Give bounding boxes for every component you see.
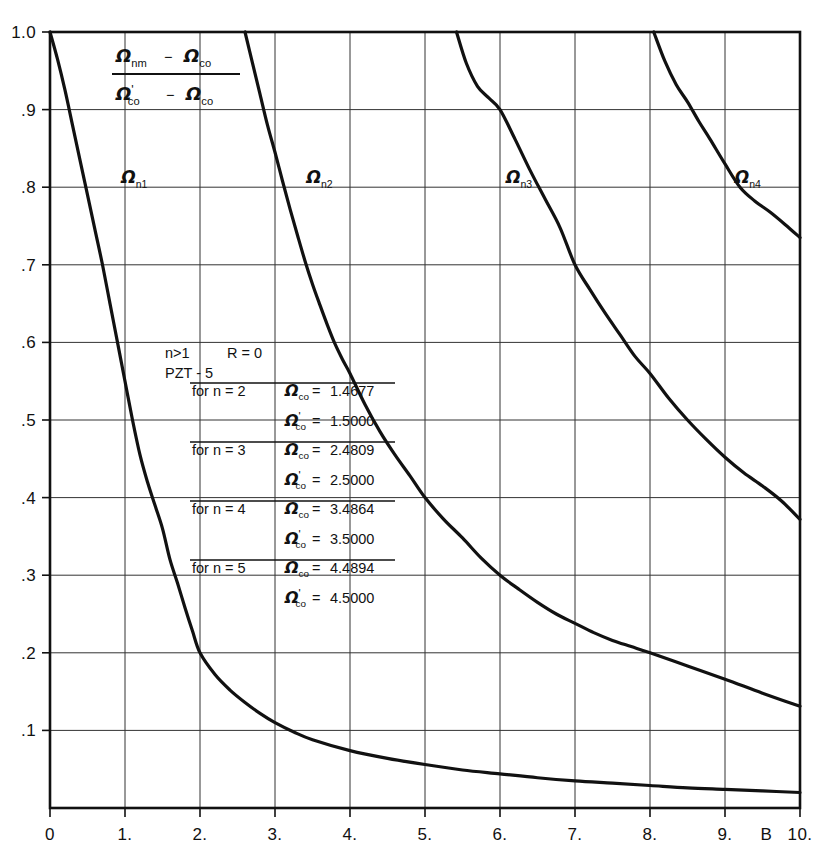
annotation-row-equals: = — [312, 472, 320, 488]
denominator-minus: − — [166, 87, 174, 103]
annotation-row-label: for n = 5 — [192, 560, 246, 576]
annotation-row-value: 2.5000 — [330, 472, 374, 488]
annotation-material: PZT - 5 — [165, 365, 213, 381]
y-tick-label: .9 — [21, 101, 36, 120]
annotation-row-value: 4.4894 — [330, 560, 374, 576]
annotation-row-value: 1.4677 — [330, 383, 374, 399]
annotation-row-symbol: Ω'co — [284, 528, 306, 549]
annotation-row-equals: = — [312, 442, 320, 458]
annotation-row-label: for n = 2 — [192, 383, 246, 399]
omega-symbol: Ωnm — [115, 45, 147, 69]
curve-label-n2: Ωn2 — [306, 167, 333, 189]
x-tick-label: 6. — [493, 825, 508, 844]
annotation-row-equals: = — [312, 383, 320, 399]
curve-label-n4: Ωn4 — [734, 167, 761, 189]
annotation-row-label: for n = 3 — [192, 442, 246, 458]
annotation-row-equals: = — [312, 501, 320, 517]
x-axis-name-label: B — [760, 825, 772, 844]
omega-symbol: Ωco — [183, 45, 211, 69]
curve-labels: Ωn1Ωn2Ωn3Ωn4 — [120, 167, 761, 189]
numerator-minus: − — [164, 49, 172, 65]
annotation-row-value: 3.5000 — [330, 531, 374, 547]
y-tick-label: .4 — [21, 489, 36, 508]
annotation-row-equals: = — [312, 590, 320, 606]
x-tick-label: 10. — [788, 825, 813, 844]
curve-__n4 — [654, 32, 800, 238]
annotation-row-value: 1.5000 — [330, 413, 374, 429]
x-tick-label: 2. — [193, 825, 208, 844]
y-tick-label: .5 — [21, 411, 36, 430]
annotation-row-symbol: Ω'co — [284, 410, 306, 431]
x-tick-label: 0 — [45, 825, 55, 844]
y-axis-tick-labels: 1.0.9.8.7.6.5.4.3.2.1 — [11, 23, 36, 740]
annotation-row-label: for n = 4 — [192, 501, 246, 517]
y-axis-title-fraction: Ωnm−ΩcoΩ'co−Ωco — [112, 45, 240, 107]
x-tick-label: 1. — [118, 825, 133, 844]
curve-label-n1: Ωn1 — [120, 167, 147, 189]
y-tick-label: 1.0 — [11, 23, 36, 42]
annotation-row-equals: = — [312, 531, 320, 547]
x-tick-label: 3. — [268, 825, 283, 844]
annotation-row-symbol: Ωco — [284, 558, 310, 579]
annotation-row-equals: = — [312, 413, 320, 429]
annotation-row-symbol: Ωco — [284, 440, 310, 461]
figure-container: 1.0.9.8.7.6.5.4.3.2.1 01.2.3.4.5.6.7.8.9… — [0, 0, 825, 862]
x-tick-label: 4. — [343, 825, 358, 844]
x-axis-tick-labels: 01.2.3.4.5.6.7.8.9.10. — [45, 825, 812, 844]
annotation-row-value: 3.4864 — [330, 501, 374, 517]
x-tick-label: 5. — [418, 825, 433, 844]
chart-canvas: 1.0.9.8.7.6.5.4.3.2.1 01.2.3.4.5.6.7.8.9… — [0, 0, 825, 862]
y-tick-label: .2 — [21, 644, 36, 663]
annotation-condition: n>1 — [165, 345, 190, 361]
annotation-row-symbol: Ω'co — [284, 469, 306, 490]
curve-label-n3: Ωn3 — [505, 167, 532, 189]
omega-symbol: Ωco — [185, 83, 213, 107]
y-tick-label: .1 — [21, 721, 36, 740]
x-tick-label: 9. — [718, 825, 733, 844]
annotation-resistance: R = 0 — [227, 345, 262, 361]
x-tick-label: 8. — [643, 825, 658, 844]
curve-__n3 — [457, 32, 801, 519]
tick-marks — [42, 32, 800, 817]
x-tick-label: 7. — [568, 825, 583, 844]
annotation-row-symbol: Ωco — [284, 381, 310, 402]
annotation-row-symbol: Ωco — [284, 499, 310, 520]
x-axis-name: B — [760, 825, 772, 844]
annotation-row-symbol: Ω'co — [284, 587, 306, 608]
curve-__n2 — [245, 32, 800, 706]
y-tick-label: .7 — [21, 256, 36, 275]
annotation-row-equals: = — [312, 560, 320, 576]
annotation-row-value: 4.5000 — [330, 590, 374, 606]
y-tick-label: .8 — [21, 178, 36, 197]
annotation-row-value: 2.4809 — [330, 442, 374, 458]
y-tick-label: .6 — [21, 333, 36, 352]
y-tick-label: .3 — [21, 566, 36, 585]
omega-symbol: Ω'co — [115, 83, 140, 107]
